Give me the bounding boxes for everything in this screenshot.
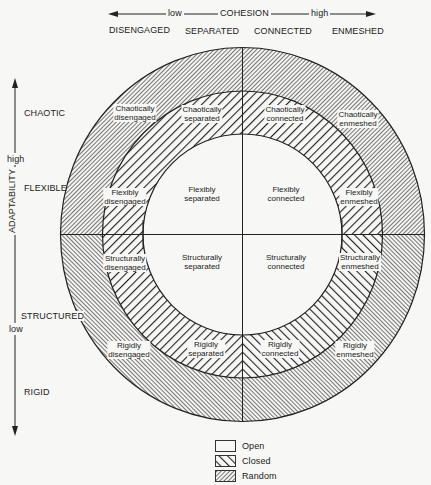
legend-label-closed: Closed (242, 456, 271, 466)
adaptability-level-flexible: FLEXIBLE (24, 183, 67, 193)
cell-structurally-connected: Structurallyconnected (266, 253, 306, 271)
cell-flexibly-disengaged: Flexiblydisengaged (103, 188, 146, 206)
cell-structurally-enmeshed: Structurallyenmeshed (339, 253, 381, 271)
cell-flexibly-enmeshed: Flexiblyenmeshed (339, 188, 378, 206)
cohesion-level-disengaged: DISENGAGED (109, 25, 170, 35)
cell-chaotically-enmeshed: Chaoticallyenmeshed (337, 110, 378, 128)
adaptability-level-structured: STRUCTURED (21, 311, 84, 321)
cohesion-low-label: low (166, 8, 184, 18)
legend-label-open: Open (242, 441, 264, 451)
cohesion-level-separated: SEPARATED (185, 26, 239, 36)
cohesion-level-enmeshed: ENMESHED (332, 26, 384, 36)
cohesion-title: COHESION (218, 8, 271, 18)
diagram-canvas (0, 0, 431, 485)
cohesion-level-connected: CONNECTED (254, 26, 312, 36)
adaptability-level-rigid: RIGID (24, 387, 50, 397)
cell-chaotically-connected: Chaoticallyconnected (264, 105, 305, 123)
cohesion-arrow-left-icon (108, 11, 118, 17)
cell-chaotically-separated: Chaoticallyseparated (181, 105, 222, 123)
legend-swatch-random (216, 471, 236, 482)
adaptability-high-label: high (7, 153, 24, 165)
adaptability-level-chaotic: CHAOTIC (24, 108, 65, 118)
cohesion-arrow-right-icon (366, 11, 376, 17)
legend-swatch-closed (216, 456, 236, 467)
adaptability-arrow-down-icon (12, 426, 18, 436)
cell-structurally-separated: Structurallyseparated (182, 253, 222, 271)
adaptability-arrow-up-icon (12, 78, 18, 88)
legend-swatch-open (216, 441, 236, 452)
legend-label-random: Random (242, 471, 277, 481)
adaptability-low-label: low (9, 323, 23, 335)
cell-flexibly-separated: Flexiblyseparated (184, 185, 220, 203)
cell-rigidly-disengaged: Rigidlydisengaged (107, 341, 150, 359)
cohesion-high-label: high (309, 8, 330, 18)
cell-rigidly-separated: Rigidlyseparated (187, 340, 225, 358)
cell-flexibly-connected: Flexiblyconnected (268, 185, 305, 203)
adaptability-title: ADAPTABILITY (7, 167, 17, 235)
cell-chaotically-disengaged: Chaoticallydisengaged (113, 104, 156, 122)
cell-structurally-disengaged: Structurallydisengaged (103, 254, 146, 272)
cell-rigidly-connected: Rigidlyconnected (261, 340, 300, 358)
cell-rigidly-enmeshed: Rigidlyenmeshed (335, 341, 374, 359)
